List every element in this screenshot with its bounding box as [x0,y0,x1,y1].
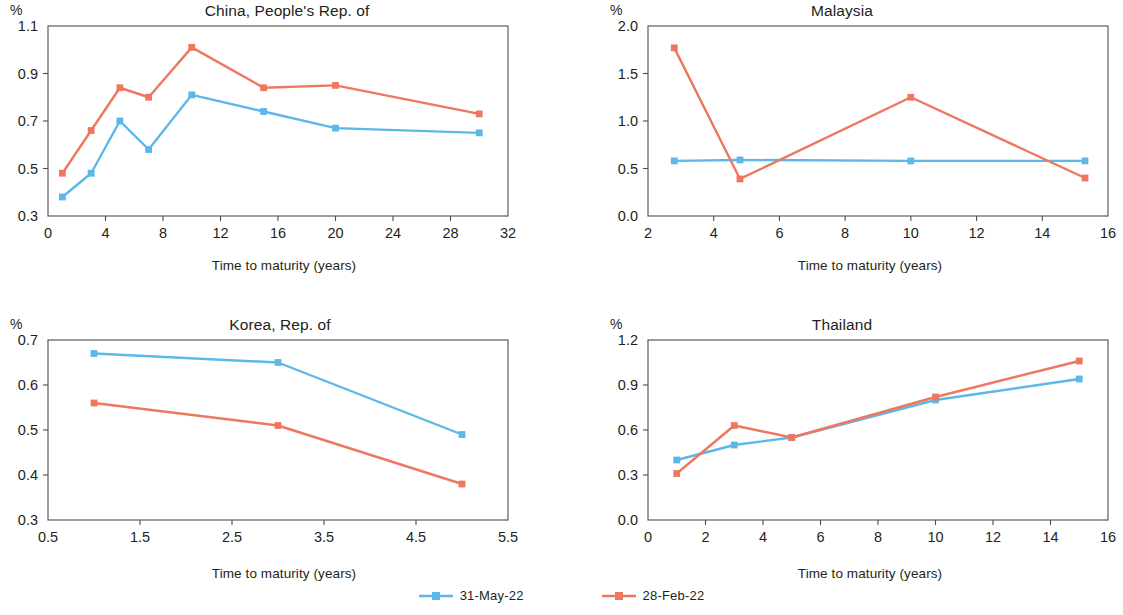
svg-text:8: 8 [874,529,882,545]
svg-text:14: 14 [1034,225,1050,241]
plot-svg-thailand: 0.00.30.60.91.20246810121416 [600,332,1120,554]
svg-text:4: 4 [759,529,767,545]
svg-text:0.7: 0.7 [18,113,38,129]
svg-text:24: 24 [385,225,401,241]
x-axis-label: Time to maturity (years) [590,566,1123,581]
panel-korea: % Korea, Rep. of 0.30.40.50.60.70.51.52.… [0,300,560,592]
plot-svg-china: 0.30.50.70.91.1048121620242832 [0,18,520,250]
svg-text:0.6: 0.6 [618,422,638,438]
svg-text:1.2: 1.2 [618,332,638,348]
svg-text:16: 16 [1100,529,1116,545]
svg-text:3.5: 3.5 [314,529,334,545]
x-axis-label: Time to maturity (years) [590,258,1123,273]
svg-text:14: 14 [1042,529,1058,545]
panel-thailand: % Thailand 0.00.30.60.91.20246810121416 … [562,300,1122,592]
svg-text:5.5: 5.5 [498,529,518,545]
svg-text:0.0: 0.0 [618,512,638,528]
chart-legend: 31-May-22 28-Feb-22 [0,588,1123,603]
svg-text:4: 4 [101,225,109,241]
panel-china: % China, People's Rep. of 0.30.50.70.91.… [0,0,560,292]
svg-text:6: 6 [816,529,824,545]
svg-text:0: 0 [44,225,52,241]
svg-text:0.9: 0.9 [618,377,638,393]
svg-text:0.5: 0.5 [38,529,58,545]
svg-text:16: 16 [270,225,286,241]
plot-svg-malaysia: 0.00.51.01.52.0246810121416 [600,18,1120,250]
svg-text:2.0: 2.0 [618,18,638,34]
svg-text:4.5: 4.5 [406,529,426,545]
x-axis-label: Time to maturity (years) [4,566,564,581]
svg-text:2.5: 2.5 [222,529,242,545]
legend-label-may: 31-May-22 [460,588,524,603]
svg-text:16: 16 [1100,225,1116,241]
svg-text:2: 2 [644,225,652,241]
svg-text:1.1: 1.1 [18,18,38,34]
svg-text:0.3: 0.3 [18,208,38,224]
svg-text:32: 32 [500,225,516,241]
svg-text:12: 12 [969,225,985,241]
plot-area: 0.00.30.60.91.20246810121416 [600,332,1120,554]
svg-text:0.6: 0.6 [18,377,38,393]
plot-area: 0.00.51.01.52.0246810121416 [600,18,1120,250]
svg-text:12: 12 [212,225,228,241]
svg-text:10: 10 [927,529,943,545]
svg-text:8: 8 [159,225,167,241]
svg-text:0.5: 0.5 [18,161,38,177]
plot-area: 0.30.40.50.60.70.51.52.53.54.55.5 [0,332,520,554]
legend-item-feb[interactable]: 28-Feb-22 [602,588,705,603]
legend-marker-feb [602,590,636,602]
svg-text:2: 2 [701,529,709,545]
svg-text:8: 8 [841,225,849,241]
svg-text:28: 28 [442,225,458,241]
plot-area: 0.30.50.70.91.1048121620242832 [0,18,520,250]
panel-malaysia: % Malaysia 0.00.51.01.52.0246810121416 T… [562,0,1122,292]
svg-text:1.5: 1.5 [130,529,150,545]
legend-marker-may [419,590,453,602]
svg-text:0.7: 0.7 [18,332,38,348]
svg-text:1.0: 1.0 [618,113,638,129]
svg-text:0.3: 0.3 [18,512,38,528]
svg-text:0.0: 0.0 [618,208,638,224]
svg-text:1.5: 1.5 [618,66,638,82]
svg-text:10: 10 [903,225,919,241]
svg-text:0.4: 0.4 [18,467,38,483]
svg-text:4: 4 [710,225,718,241]
svg-text:0.3: 0.3 [618,467,638,483]
legend-label-feb: 28-Feb-22 [643,588,705,603]
chart-grid: % China, People's Rep. of 0.30.50.70.91.… [0,0,1123,615]
x-axis-label: Time to maturity (years) [4,258,564,273]
svg-text:0.5: 0.5 [18,422,38,438]
svg-text:6: 6 [775,225,783,241]
svg-text:0.9: 0.9 [18,66,38,82]
svg-text:0.5: 0.5 [618,161,638,177]
legend-item-may[interactable]: 31-May-22 [419,588,524,603]
svg-text:20: 20 [327,225,343,241]
plot-svg-korea: 0.30.40.50.60.70.51.52.53.54.55.5 [0,332,520,554]
svg-text:0: 0 [644,529,652,545]
svg-text:12: 12 [985,529,1001,545]
